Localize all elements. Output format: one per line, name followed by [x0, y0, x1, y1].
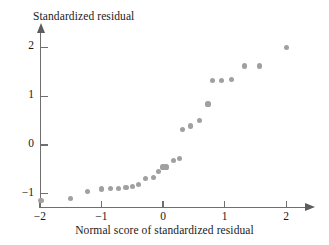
scatter-point: [136, 182, 141, 187]
y-tick-mark: [41, 47, 48, 48]
x-tick-label: −2: [28, 210, 52, 222]
scatter-point: [180, 127, 185, 132]
scatter-point: [85, 189, 90, 194]
scatter-point: [99, 186, 104, 191]
y-tick-mark: [41, 144, 48, 145]
y-tick-label: −1: [12, 186, 34, 198]
x-tick-label: 1: [213, 210, 237, 222]
x-tick-mark: [224, 201, 225, 208]
scatter-point: [210, 78, 215, 83]
y-axis-line: [40, 31, 41, 208]
y-tick-label: 0: [12, 137, 34, 149]
x-tick-label: −1: [89, 210, 113, 222]
normal-probability-plot: Standardized residual −1012 −2−1012 Norm…: [0, 0, 329, 245]
scatter-point: [229, 77, 234, 82]
scatter-point: [163, 164, 168, 169]
y-tick-mark: [41, 96, 48, 97]
x-tick-mark: [286, 201, 287, 208]
x-tick-label: 0: [151, 210, 175, 222]
scatter-point: [156, 169, 161, 174]
x-tick-label: 2: [274, 210, 298, 222]
scatter-point: [188, 123, 193, 128]
y-axis-title: Standardized residual: [33, 10, 134, 22]
scatter-point: [219, 78, 224, 83]
scatter-point: [171, 158, 176, 163]
scatter-point: [38, 198, 43, 203]
scatter-point: [143, 176, 148, 181]
scatter-point: [205, 101, 210, 106]
scatter-point: [177, 156, 182, 161]
x-axis-arrow-icon: [305, 203, 315, 211]
scatter-point: [151, 175, 156, 180]
scatter-point: [68, 196, 73, 201]
scatter-point: [108, 186, 113, 191]
y-tick-label: 2: [12, 39, 34, 51]
y-tick-mark: [41, 193, 48, 194]
scatter-point: [257, 63, 262, 68]
x-tick-mark: [101, 201, 102, 208]
x-axis-title: Normal score of standardized residual: [0, 224, 329, 236]
y-tick-label: 1: [12, 88, 34, 100]
x-axis-line: [40, 207, 307, 208]
x-tick-mark: [162, 201, 163, 208]
scatter-point: [116, 186, 121, 191]
scatter-point: [197, 118, 202, 123]
scatter-point: [123, 185, 128, 190]
y-axis-arrow-icon: [37, 23, 45, 33]
scatter-point: [130, 184, 135, 189]
scatter-point: [284, 45, 289, 50]
scatter-point: [242, 63, 247, 68]
